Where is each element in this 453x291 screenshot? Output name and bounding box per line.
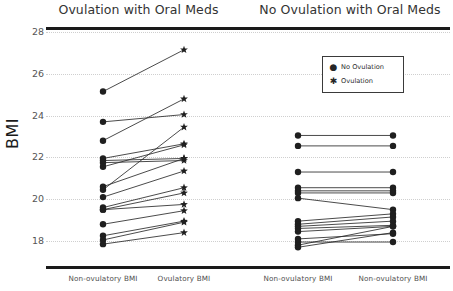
connector-line — [103, 50, 184, 92]
data-point-no-ovulation — [390, 132, 396, 138]
data-point-ovulation — [180, 95, 188, 102]
data-point-no-ovulation — [390, 223, 396, 229]
y-axis-tick-label: 22 — [14, 151, 44, 162]
data-point-no-ovulation — [390, 239, 396, 245]
y-axis-tick-label: 20 — [14, 193, 44, 204]
connector-line — [103, 211, 184, 225]
y-axis-tick-label: 24 — [14, 110, 44, 121]
x-axis-tick-label: Non-ovulatory BMI — [358, 274, 427, 283]
data-point-no-ovulation — [295, 195, 301, 201]
data-point-ovulation — [180, 141, 188, 148]
bottom-axis-spine — [46, 266, 450, 269]
circle-marker-icon: ● — [328, 61, 339, 74]
connector-line — [103, 99, 184, 141]
data-point-no-ovulation — [295, 169, 301, 175]
data-point-no-ovulation — [295, 143, 301, 149]
data-point-ovulation — [180, 218, 188, 225]
data-point-no-ovulation — [390, 143, 396, 149]
x-axis-tick-label: Non-ovulatory BMI — [263, 274, 332, 283]
data-point-no-ovulation — [295, 228, 301, 234]
chart-legend: ● No Ovulation ✱ Ovulation — [322, 56, 404, 93]
y-axis-tick-label: 28 — [14, 26, 44, 37]
data-point-no-ovulation — [390, 169, 396, 175]
data-point-ovulation — [180, 167, 188, 174]
data-point-ovulation — [180, 207, 188, 214]
data-point-no-ovulation — [100, 206, 106, 212]
y-axis-tick-label: 18 — [14, 235, 44, 246]
data-point-ovulation — [180, 110, 188, 117]
data-point-no-ovulation — [390, 190, 396, 196]
data-point-ovulation — [180, 189, 188, 196]
data-point-no-ovulation — [295, 244, 301, 250]
data-point-no-ovulation — [295, 132, 301, 138]
connector-line — [298, 233, 393, 248]
data-point-no-ovulation — [100, 164, 106, 170]
connector-line — [103, 221, 184, 236]
connector-line — [103, 188, 184, 208]
data-point-ovulation — [180, 229, 188, 236]
star-marker-icon: ✱ — [328, 75, 339, 88]
x-axis-tick-label: Ovulatory BMI — [158, 274, 211, 283]
connector-line — [103, 115, 184, 122]
data-point-no-ovulation — [100, 119, 106, 125]
legend-item-ovulation: ✱ Ovulation — [328, 75, 373, 88]
data-point-no-ovulation — [390, 229, 396, 235]
data-point-no-ovulation — [100, 241, 106, 247]
connector-line — [103, 222, 184, 240]
data-point-no-ovulation — [100, 187, 106, 193]
paired-bmi-chart: Ovulation with Oral Meds No Ovulation wi… — [0, 0, 453, 291]
legend-label-no-ovulation: No Ovulation — [341, 63, 384, 71]
data-point-no-ovulation — [100, 88, 106, 94]
connector-line — [103, 233, 184, 244]
data-point-no-ovulation — [100, 194, 106, 200]
connector-line — [298, 198, 393, 209]
data-point-no-ovulation — [100, 137, 106, 143]
connector-line — [103, 171, 184, 197]
y-axis-tick-label: 26 — [14, 68, 44, 79]
x-axis-tick-label: Non-ovulatory BMI — [68, 274, 137, 283]
legend-label-ovulation: Ovulation — [341, 77, 373, 85]
data-marks-layer — [0, 0, 453, 291]
connector-line — [298, 217, 393, 224]
legend-item-no-ovulation: ● No Ovulation — [328, 61, 384, 74]
data-point-ovulation — [180, 46, 188, 53]
connector-line — [298, 214, 393, 221]
data-point-no-ovulation — [100, 221, 106, 227]
